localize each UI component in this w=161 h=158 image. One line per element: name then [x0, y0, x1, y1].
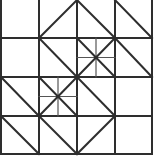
- grid-pattern-svg: [0, 0, 161, 158]
- star-center-dot: [56, 95, 60, 99]
- diagonal-line: [115, 38, 152, 77]
- grid-diagram: [0, 0, 161, 158]
- diagonal-line: [39, 38, 77, 77]
- diagonal-line: [1, 77, 39, 116]
- diagonal-line: [115, 0, 152, 38]
- diagonal-line: [77, 116, 115, 154]
- diagonal-line: [39, 116, 77, 154]
- diagonal-line: [77, 0, 115, 38]
- diagonal-line: [39, 0, 77, 38]
- star-center-dot: [94, 56, 98, 60]
- diagonal-line: [1, 116, 39, 154]
- diagonal-line: [77, 77, 115, 116]
